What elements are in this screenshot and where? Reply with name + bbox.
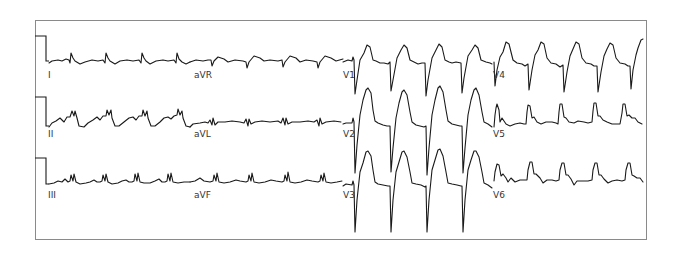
- calibration-pulse-row3: [35, 158, 49, 184]
- ecg-chart: I aVR V1 V4 II aVL V2 V5 III aVF V3 V6: [0, 0, 678, 256]
- lead-label-V4: V4: [493, 70, 505, 80]
- trace-lead-V5: [494, 103, 642, 127]
- lead-label-aVL: aVL: [194, 129, 211, 139]
- lead-label-aVR: aVR: [194, 70, 212, 80]
- trace-lead-III: [49, 173, 190, 184]
- lead-label-II: II: [48, 129, 53, 139]
- trace-lead-aVF: [190, 172, 342, 183]
- lead-label-V6: V6: [493, 190, 505, 200]
- trace-lead-V4: [494, 39, 643, 92]
- lead-label-aVF: aVF: [194, 190, 211, 200]
- trace-lead-V1: [343, 44, 492, 96]
- lead-label-V5: V5: [493, 129, 505, 139]
- trace-lead-II: [49, 109, 190, 127]
- lead-label-V1: V1: [343, 70, 355, 80]
- trace-lead-V2: [343, 86, 492, 175]
- lead-label-V3: V3: [343, 190, 355, 200]
- trace-lead-V6: [494, 162, 643, 185]
- trace-lead-aVL: [190, 118, 341, 127]
- trace-lead-aVR: [190, 56, 343, 68]
- lead-label-V2: V2: [343, 129, 355, 139]
- lead-label-III: III: [48, 190, 56, 200]
- lead-label-I: I: [48, 70, 51, 80]
- trace-lead-I: [49, 53, 190, 64]
- calibration-pulse-row2: [35, 97, 49, 126]
- calibration-pulse-row1: [35, 36, 49, 61]
- trace-lead-V3: [343, 149, 492, 232]
